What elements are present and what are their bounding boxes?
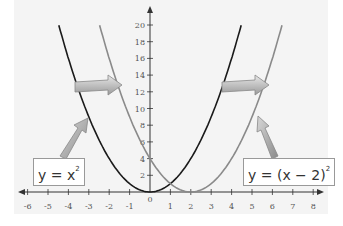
y-tick-label: 4 — [140, 155, 145, 164]
x-tick-label: -5 — [44, 202, 52, 211]
annotation-arrows — [60, 75, 278, 159]
y-tick-label: 16 — [135, 54, 145, 63]
label-text: y = x — [38, 167, 75, 183]
label-text: y = (x − 2) — [248, 167, 326, 183]
x-tick-label: 5 — [249, 202, 254, 211]
x-axis-left-arrow-icon — [18, 189, 25, 195]
label-exponent: 2 — [75, 165, 79, 173]
pointer-arrow-right — [257, 116, 278, 159]
chart-canvas: -6-5-4-3-2-10123456782468101214161820 y … — [0, 0, 343, 226]
x-tick-label: -1 — [126, 202, 134, 211]
y-tick-label: 14 — [135, 71, 145, 80]
x-tick-label: 3 — [209, 202, 214, 211]
label-y-equals-x-minus-2-squared: y = (x − 2)2 — [243, 158, 335, 186]
y-tick-label: 12 — [135, 88, 145, 97]
x-tick-label: 6 — [270, 202, 275, 211]
x-tick-label: -6 — [24, 202, 32, 211]
y-tick-label: 18 — [135, 38, 145, 47]
x-tick-label: -4 — [65, 202, 73, 211]
y-tick-label: 10 — [135, 105, 145, 114]
x-tick-label: 4 — [229, 202, 234, 211]
y-tick-label: 20 — [135, 21, 145, 30]
y-axis-arrow-icon — [147, 6, 153, 13]
y-tick-label: 8 — [140, 121, 145, 130]
x-tick-label: 0 — [147, 195, 152, 204]
label-exponent: 2 — [326, 165, 330, 173]
x-tick-label: 8 — [311, 202, 316, 211]
x-tick-label: 1 — [168, 202, 173, 211]
pointer-arrow-left — [60, 118, 88, 159]
x-tick-label: -3 — [85, 202, 93, 211]
x-tick-label: 7 — [290, 202, 295, 211]
x-tick-label: 2 — [188, 202, 193, 211]
plot-area: -6-5-4-3-2-10123456782468101214161820 — [0, 0, 343, 226]
x-axis-right-arrow-icon — [317, 189, 324, 195]
x-tick-label: -2 — [105, 202, 113, 211]
label-y-equals-x-squared: y = x2 — [33, 158, 85, 186]
y-tick-label: 2 — [140, 171, 145, 180]
